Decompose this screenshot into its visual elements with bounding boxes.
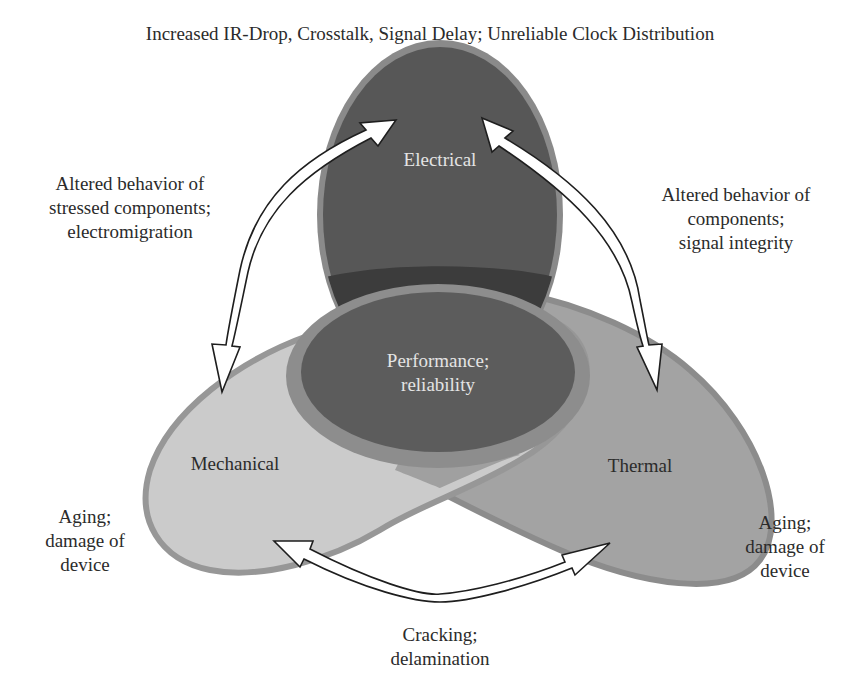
mechanical-thermal-caption: Cracking; delamination [360, 623, 520, 671]
caption-line: components; [636, 207, 836, 231]
caption-line: damage of [30, 529, 140, 553]
caption-line: device [30, 553, 140, 577]
electrical-label: Electrical [360, 148, 520, 172]
diagram-canvas [0, 0, 860, 694]
top-effects-caption: Increased IR-Drop, Crosstalk, Signal Del… [0, 22, 860, 46]
thermal-effects-caption: Aging; damage of device [730, 511, 840, 583]
electrical-thermal-caption: Altered behavior of components; signal i… [636, 183, 836, 255]
caption-line: Aging; [730, 511, 840, 535]
caption-line: Altered behavior of [636, 183, 836, 207]
electrical-mechanical-caption: Altered behavior of stressed components;… [20, 172, 240, 244]
caption-line: device [730, 559, 840, 583]
mechanical-label-text: Mechanical [191, 453, 280, 474]
caption-line: electromigration [20, 220, 240, 244]
thermal-label: Thermal [580, 454, 700, 478]
mechanical-label: Mechanical [170, 452, 300, 476]
mechanical-effects-caption: Aging; damage of device [30, 505, 140, 577]
caption-line: delamination [360, 647, 520, 671]
top-effects-text: Increased IR-Drop, Crosstalk, Signal Del… [146, 23, 714, 44]
caption-line: signal integrity [636, 231, 836, 255]
electrical-label-text: Electrical [404, 149, 477, 170]
center-label-line-2: reliability [340, 373, 536, 397]
caption-line: Cracking; [360, 623, 520, 647]
caption-line: stressed components; [20, 196, 240, 220]
caption-line: damage of [730, 535, 840, 559]
center-label-line-1: Performance; [340, 349, 536, 373]
center-label: Performance; reliability [340, 349, 536, 397]
caption-line: Altered behavior of [20, 172, 240, 196]
thermal-label-text: Thermal [608, 455, 672, 476]
caption-line: Aging; [30, 505, 140, 529]
